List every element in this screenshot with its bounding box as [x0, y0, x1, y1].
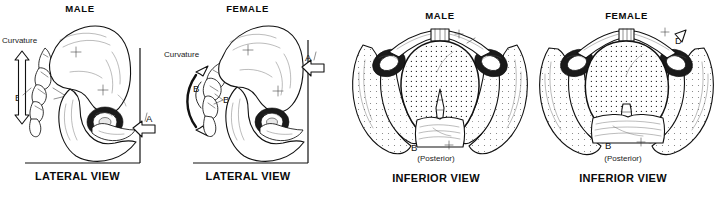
- curvature-double-arrow: [15, 51, 29, 124]
- pelvis-comparison-figure: MALE Curvature B B A LATERAL VIEW: [0, 0, 718, 198]
- subpubic-angle-marker: [661, 28, 686, 42]
- male-lateral-drawing: [0, 0, 160, 198]
- female-lateral-drawing: [160, 0, 345, 198]
- arrow-A-marker: [302, 52, 324, 76]
- panel-female-lateral: FEMALE Curvature B B A LATERAL VIEW: [160, 0, 345, 198]
- panel-male-lateral: MALE Curvature B B A LATERAL VIEW: [0, 0, 160, 198]
- panel-female-inferior: FEMALE D B (Posterior) INFERIOR VIEW: [535, 0, 718, 198]
- male-inferior-drawing: [345, 0, 535, 198]
- sacrum-coccyx-shape: [30, 48, 53, 137]
- female-inferior-drawing: [535, 0, 718, 198]
- arrow-A-marker: [133, 113, 155, 137]
- curvature-letter-arc: [196, 82, 201, 108]
- sacrum-shape: [592, 114, 665, 143]
- sacrum-shape: [416, 117, 465, 147]
- panel-male-inferior: MALE D B (Posterior) INFERIOR VIEW: [345, 0, 535, 198]
